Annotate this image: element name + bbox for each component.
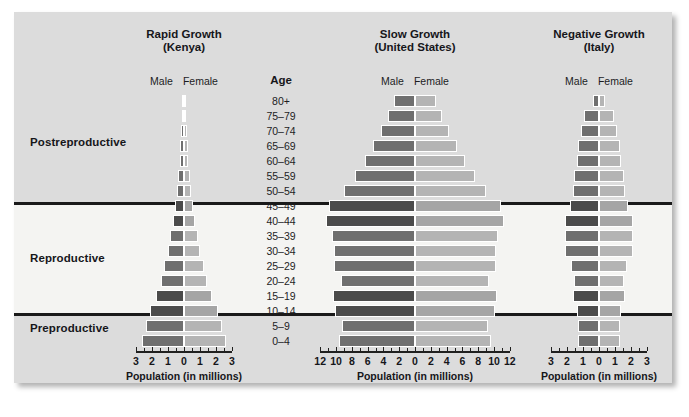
bar-male [584, 110, 599, 122]
x-axis-tick-label: 3 [133, 355, 139, 367]
bar-male [574, 170, 599, 182]
x-axis-tick [399, 347, 400, 351]
pyramid-row [534, 319, 664, 334]
bar-female [599, 95, 605, 107]
bar-female [184, 185, 191, 197]
bar-female [599, 215, 633, 227]
bar-female [184, 290, 212, 302]
bar-female [415, 200, 501, 212]
pyramid-row [320, 319, 510, 334]
x-axis-line [320, 351, 510, 353]
bar-female [415, 110, 442, 122]
x-axis-tick [352, 347, 353, 351]
age-column-header: Age [242, 74, 320, 86]
pyramid-row [124, 199, 244, 214]
age-group-label: 45–49 [242, 199, 320, 214]
bar-female [415, 260, 496, 272]
age-group-label: 25–29 [242, 259, 320, 274]
x-axis-minor-tick [591, 348, 592, 351]
x-axis-line [551, 351, 647, 353]
x-axis-minor-tick [455, 348, 456, 351]
pyramid-row [124, 259, 244, 274]
x-axis-tick-label: 8 [475, 355, 481, 367]
x-axis-tick-label: 4 [380, 355, 386, 367]
age-group-label: 5–9 [242, 319, 320, 334]
bar-male [565, 245, 599, 257]
pyramid-row [534, 154, 664, 169]
x-axis-tick-label: 2 [149, 355, 155, 367]
bar-female [599, 155, 621, 167]
x-axis-tick [567, 347, 568, 351]
x-axis-minor-tick [328, 348, 329, 351]
age-group-label: 0–4 [242, 334, 320, 349]
pyramid-row [124, 244, 244, 259]
bar-male [334, 245, 415, 257]
x-axis-minor-tick [559, 348, 560, 351]
bar-female [415, 290, 497, 302]
pyramid-row [124, 169, 244, 184]
figure-panel: Postreproductive Reproductive Preproduct… [14, 12, 672, 383]
x-axis-minor-tick [360, 348, 361, 351]
x-axis-minor-tick [176, 348, 177, 351]
bar-female [184, 110, 186, 122]
bar-male [565, 230, 599, 242]
x-axis-tick [368, 347, 369, 351]
pyramid-row [124, 124, 244, 139]
bar-male [373, 140, 415, 152]
bar-female [415, 215, 504, 227]
pyramid-row [534, 199, 664, 214]
x-axis-tick [184, 347, 185, 351]
chart-united-states: Slow Growth (United States) MaleFemale 1… [320, 12, 510, 383]
stage-label-preproductive: Preproductive [30, 322, 109, 334]
x-axis-minor-tick [344, 348, 345, 351]
x-axis-minor-tick [575, 348, 576, 351]
x-axis-minor-tick [623, 348, 624, 351]
bar-male [578, 140, 599, 152]
bar-male [168, 245, 184, 257]
bar-female [415, 125, 449, 137]
bar-male [339, 335, 415, 347]
bar-female [184, 245, 200, 257]
x-axis-tick-label: 6 [459, 355, 465, 367]
pyramid-row [534, 274, 664, 289]
age-group-label: 80+ [242, 94, 320, 109]
bar-female [184, 275, 207, 287]
x-axis-caption: Population (in millions) [124, 370, 244, 382]
bar-male [146, 320, 184, 332]
pyramid-row [534, 169, 664, 184]
bar-male [156, 290, 184, 302]
x-axis-tick-label: 8 [349, 355, 355, 367]
bar-female [184, 260, 204, 272]
stage-label-postreproductive: Postreproductive [30, 136, 126, 148]
age-group-label: 55–59 [242, 169, 320, 184]
x-axis-tick [510, 347, 511, 351]
x-axis-tick [631, 347, 632, 351]
bar-male [574, 275, 599, 287]
bar-male [571, 260, 599, 272]
x-axis-tick [615, 347, 616, 351]
pyramid-row [534, 304, 664, 319]
x-axis-tick-label: 12 [504, 355, 516, 367]
bar-male [565, 215, 599, 227]
bar-male [394, 95, 415, 107]
x-axis-minor-tick [376, 348, 377, 351]
x-axis-minor-tick [391, 348, 392, 351]
pyramid-row [124, 229, 244, 244]
x-axis-minor-tick [486, 348, 487, 351]
pyramid-row [320, 169, 510, 184]
x-axis-tick-label: 3 [229, 355, 235, 367]
bar-female [599, 245, 633, 257]
x-axis-tick [551, 347, 552, 351]
pyramid-row [320, 274, 510, 289]
x-axis-tick [415, 347, 416, 351]
x-axis-tick [431, 347, 432, 351]
x-axis-tick [336, 347, 337, 351]
x-axis-tick-label: 1 [197, 355, 203, 367]
bar-female [184, 200, 193, 212]
x-axis-tick-label: 1 [580, 355, 586, 367]
age-column: Age 80+75–7970–7465–6960–6455–5950–5445–… [242, 12, 320, 383]
bar-male [578, 320, 599, 332]
pyramid-row [320, 244, 510, 259]
bar-male [341, 275, 415, 287]
bar-female [599, 185, 625, 197]
